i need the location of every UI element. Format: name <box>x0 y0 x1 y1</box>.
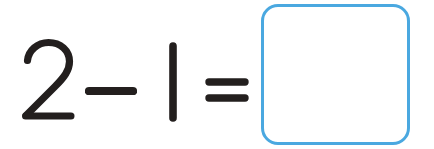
equals-sign-glyph <box>204 72 250 108</box>
digit-two-glyph <box>20 36 80 124</box>
digit-one-glyph <box>162 40 184 124</box>
equation <box>0 0 258 149</box>
answer-input-box[interactable] <box>261 4 410 145</box>
math-problem-worksheet <box>0 0 434 149</box>
minus-sign-glyph <box>85 80 137 102</box>
answer-value <box>264 7 407 142</box>
